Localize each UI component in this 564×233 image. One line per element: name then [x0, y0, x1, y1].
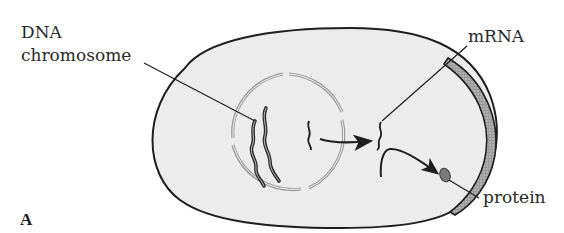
panel-letter: A	[20, 210, 32, 230]
dna-label: DNA	[21, 22, 62, 42]
protein-label: protein	[483, 187, 546, 207]
cell-body	[153, 28, 497, 228]
chromosome-label: chromosome	[21, 45, 131, 65]
mrna-label: mRNA	[468, 26, 524, 46]
cell-diagram: DNA chromosome mRNA protein A	[0, 0, 564, 233]
